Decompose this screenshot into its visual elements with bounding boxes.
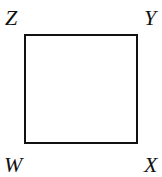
- vertex-label-w: W: [4, 154, 22, 176]
- vertex-label-z: Z: [5, 7, 17, 29]
- vertex-label-y: Y: [144, 7, 156, 29]
- vertex-label-x: X: [144, 154, 157, 176]
- square-wxyz: [24, 34, 138, 144]
